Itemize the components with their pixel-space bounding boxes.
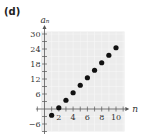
x-axis-label: n <box>132 104 138 114</box>
x-tick-label: 10 <box>111 113 121 122</box>
y-tick-label: 30 <box>30 30 40 39</box>
x-axis-arrow-icon <box>125 107 129 111</box>
y-tick-label: −6 <box>29 120 41 129</box>
data-point <box>92 68 97 73</box>
y-tick-label: 12 <box>30 75 40 84</box>
data-point <box>71 90 76 95</box>
data-point <box>49 113 54 118</box>
x-tick-label: 8 <box>99 113 104 122</box>
y-axis-arrow-icon <box>43 25 47 29</box>
data-point <box>56 105 61 110</box>
data-point <box>63 98 68 103</box>
data-point <box>78 83 83 88</box>
data-point <box>99 60 104 65</box>
data-point <box>106 53 111 58</box>
y-axis-label: aₙ <box>41 15 50 25</box>
data-point <box>113 45 118 50</box>
y-tick-label: 18 <box>30 60 40 69</box>
y-tick-label: 6 <box>35 90 40 99</box>
x-tick-label: 6 <box>85 113 90 122</box>
x-tick-label: 4 <box>71 113 76 122</box>
y-tick-label: 24 <box>30 45 40 54</box>
data-point <box>85 75 90 80</box>
x-tick-label: 2 <box>56 113 61 122</box>
scatter-chart: 246810−6612182430 n aₙ <box>0 0 147 140</box>
